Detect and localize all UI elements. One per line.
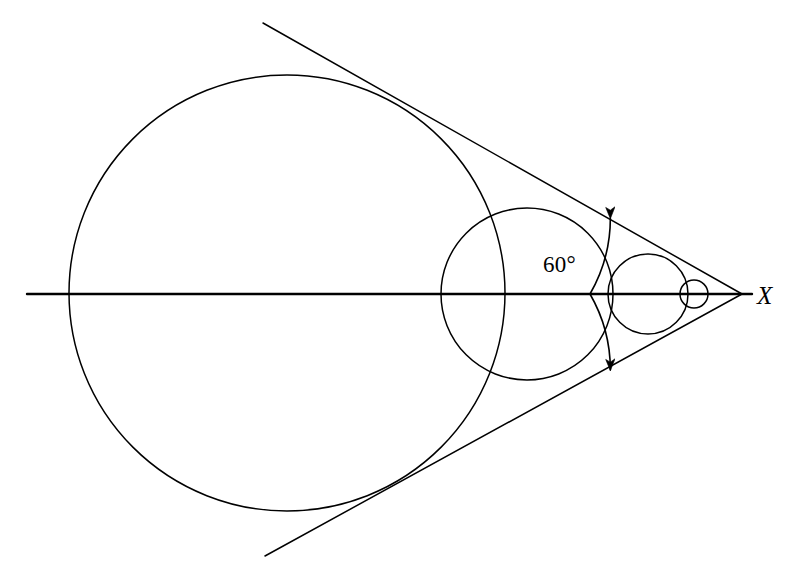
geometry-canvas bbox=[0, 0, 801, 581]
upper-tangent-line bbox=[263, 23, 742, 294]
lower-tangent-line bbox=[265, 294, 742, 556]
angle-measure-label: 60° bbox=[543, 253, 576, 276]
angle-arc-lower-half bbox=[590, 294, 610, 370]
axis-label-x: X bbox=[757, 283, 772, 308]
angle-arc-upper-half bbox=[590, 218, 610, 294]
geometry-figure: X 60° bbox=[0, 0, 801, 581]
